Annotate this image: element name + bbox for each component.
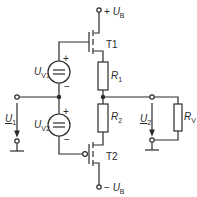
v1-label: UV1: [34, 67, 50, 78]
t2-label: T2: [106, 152, 118, 162]
v2-minus-sign: −: [64, 135, 70, 145]
v1-minus-sign: −: [64, 82, 70, 92]
t1-label: T1: [106, 40, 118, 50]
output-voltage-arrow: [145, 103, 159, 150]
input-voltage-arrow: [10, 103, 24, 151]
u1-label: U1: [5, 114, 16, 125]
supply-bottom-label: − UB: [104, 183, 125, 194]
r2-label: R2: [111, 112, 122, 123]
v2-label: UV2: [34, 120, 50, 131]
input-line: [15, 95, 61, 99]
transistor-t2: [83, 132, 103, 185]
rv-label: RV: [184, 112, 196, 123]
resistor-rv: [174, 104, 182, 131]
supply-bottom-terminal: [97, 185, 101, 189]
circuit-diagram: [0, 0, 197, 197]
resistor-r1: [98, 62, 108, 90]
supply-top-label: + UB: [104, 7, 125, 18]
v1-plus-sign: +: [63, 54, 69, 64]
r1-label: R1: [111, 71, 122, 82]
u2-label: U2: [140, 114, 151, 125]
output-line: [101, 95, 178, 104]
resistor-r2: [98, 104, 108, 132]
v2-plus-sign: +: [63, 107, 69, 117]
supply-top-terminal: [94, 8, 101, 33]
